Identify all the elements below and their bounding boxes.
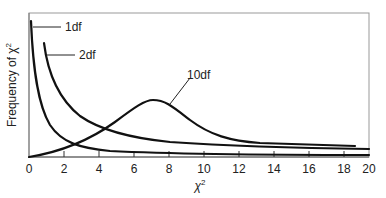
- label-1df: 1df: [65, 20, 82, 34]
- leader-lines: [33, 27, 190, 104]
- tick-label: 10: [197, 162, 211, 176]
- tick-label: 2: [61, 162, 68, 176]
- tick-label: 4: [96, 162, 103, 176]
- label-10df: 10df: [187, 68, 211, 82]
- tick-label: 16: [302, 162, 316, 176]
- tick-label: 14: [267, 162, 281, 176]
- tick-label: 0: [26, 162, 33, 176]
- series-annotations: 1df 2df 10df: [65, 20, 211, 82]
- tick-label: 18: [337, 162, 351, 176]
- tick-label: 6: [131, 162, 138, 176]
- tick-label: 12: [232, 162, 246, 176]
- label-2df: 2df: [79, 48, 96, 62]
- y-axis-label: Frequency of χ2: [4, 42, 19, 127]
- plot-frame: [29, 13, 369, 157]
- x-tick-labels: 0 2 4 6 8 10 12 14 16 18 20: [26, 162, 376, 176]
- tick-label: 20: [362, 162, 376, 176]
- chi-square-chart: 0 2 4 6 8 10 12 14 16 18 20 χ2 Frequency…: [0, 0, 386, 198]
- tick-label: 8: [166, 162, 173, 176]
- x-axis-label: χ2: [193, 178, 206, 193]
- curve-1df: [31, 21, 369, 155]
